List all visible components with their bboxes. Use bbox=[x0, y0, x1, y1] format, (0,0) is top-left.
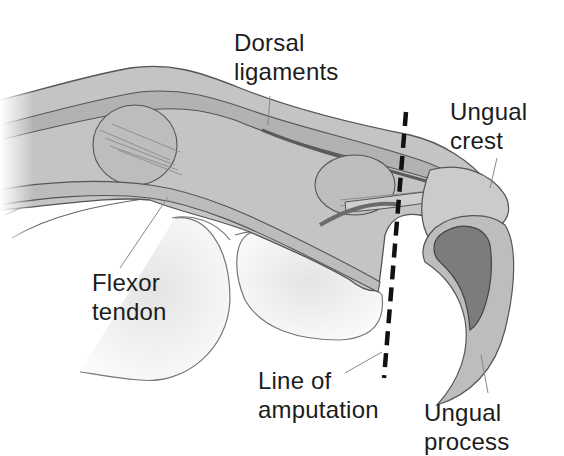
anatomy-diagram: Dorsal ligaments Ungual crest Flexor ten… bbox=[0, 0, 564, 456]
label-line: process bbox=[424, 427, 509, 456]
label-flexor-tendon: Flexor tendon bbox=[92, 268, 167, 326]
label-line: amputation bbox=[258, 395, 379, 424]
label-line: Flexor bbox=[92, 268, 167, 297]
label-ungual-process: Ungual process bbox=[424, 398, 509, 456]
label-line: Line of bbox=[258, 366, 379, 395]
label-line: ligaments bbox=[234, 57, 339, 86]
label-line-of-amputation: Line of amputation bbox=[258, 366, 379, 424]
label-line: Dorsal bbox=[234, 28, 339, 57]
label-line: Ungual bbox=[424, 398, 509, 427]
label-line: crest bbox=[450, 126, 527, 155]
label-line: Ungual bbox=[450, 97, 527, 126]
label-dorsal-ligaments: Dorsal ligaments bbox=[234, 28, 339, 86]
label-line: tendon bbox=[92, 297, 167, 326]
label-ungual-crest: Ungual crest bbox=[450, 97, 527, 155]
